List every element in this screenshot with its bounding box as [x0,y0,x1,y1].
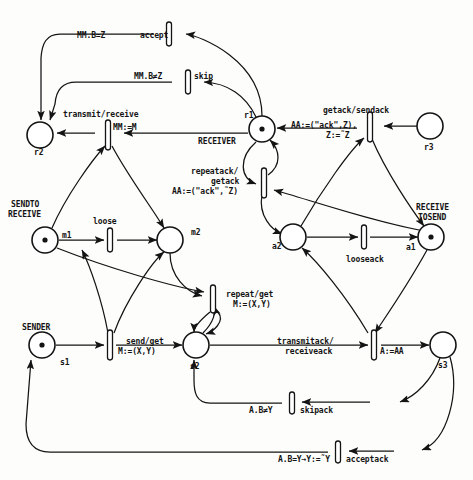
place-label-s1: s1 [60,358,69,368]
repeatack-label-line1: repeatack/ [191,167,238,177]
receivetosend-label-line2: TOSEND [418,213,446,223]
arc-group [26,34,454,452]
repeat-guard-label: M:=(X,Y) [233,300,271,310]
transmit-guard-label: MM:=M [113,123,137,133]
place-label-s3: s3 [438,361,447,371]
petri-net-canvas: MM.B=Z accept MM.B≠Z skip transmit/recei… [0,0,473,480]
place-a2[interactable] [280,224,306,250]
repeatack-guard-label: AA:=("ack",˜Z) [172,187,238,197]
place-label-s2: s2 [190,362,199,372]
transition-getack[interactable] [368,112,373,142]
place-r2[interactable] [27,122,53,148]
transition-skipack[interactable] [290,392,295,414]
accept-transition-label: accept [140,31,168,41]
transmit-transition-label: transmit/receive [63,110,138,120]
acceptack-guard-label: A.B=Y→Y:=˜Y [278,455,330,465]
skip-guard-label: MM.B≠Z [134,72,162,82]
transmitack-label-line1: transmitack/ [277,337,334,347]
place-label-r1: r1 [244,111,253,121]
place-r3[interactable] [417,113,443,139]
transition-skip[interactable] [186,70,191,94]
transition-transmit[interactable] [106,120,111,150]
sender-place-label: SENDER [22,323,50,333]
transition-repeatack[interactable] [262,168,267,198]
loose-transition-label: loose [93,217,117,227]
place-s3[interactable] [430,332,456,358]
transition-send[interactable] [108,330,113,360]
transition-bars [106,22,377,463]
getack-guard-line1: AA:=("ack",Z), [291,121,357,131]
sendtoreceive-label-line2: RECEIVE [8,210,41,220]
place-group [27,113,456,358]
sendtoreceive-label-line1: SENDTO [11,200,39,210]
transition-loose[interactable] [108,228,113,252]
place-m2[interactable] [157,227,183,253]
send-guard-label: M:=(X,Y) [118,347,156,357]
place-label-a2: a2 [272,242,281,252]
token-r1 [259,126,264,131]
transmitack-label-line2: receiveack [285,347,332,357]
transition-repeat[interactable] [211,285,216,313]
skip-transition-label: skip [194,72,213,82]
place-label-r2: r2 [34,148,43,158]
getack-guard-line2: Z:=˜Z [326,131,350,141]
repeat-transition-label: repeat/get [226,290,273,300]
transition-looseack[interactable] [362,225,367,249]
transition-acceptack[interactable] [336,441,341,463]
place-label-m2: m2 [191,228,200,238]
skipack-guard-label: A.B≠Y [249,406,273,416]
acceptack-transition-label: acceptack [346,455,388,465]
place-label-a1: a1 [406,243,415,253]
skipack-transition-label: skipack [300,406,333,416]
accept-guard-label: MM.B=Z [77,31,105,41]
token-s1 [39,342,44,347]
transmitack-guard-label: A:=AA [380,347,404,357]
token-m1 [42,237,47,242]
send-transition-label: send/get [126,337,164,347]
token-a1 [428,234,433,239]
place-label-m1: m1 [62,231,71,241]
receiver-place-label: RECEIVER [198,137,236,147]
place-s2[interactable] [183,332,209,358]
transition-transmitack[interactable] [372,330,377,360]
place-label-r3: r3 [424,143,433,153]
looseack-transition-label: looseack [346,255,384,265]
receivetosend-label-line1: RECEIVE [416,203,449,213]
getack-transition-label: getack/sendack [323,106,389,116]
repeatack-label-line2: getack [211,177,239,187]
